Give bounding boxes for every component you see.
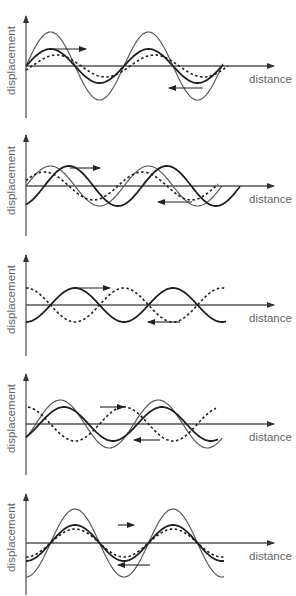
y-axis-label: displacement — [5, 503, 17, 572]
wave-panel-5: displacement distance — [0, 0, 296, 596]
panel-graph — [0, 0, 296, 596]
x-axis-label: distance — [249, 550, 292, 562]
